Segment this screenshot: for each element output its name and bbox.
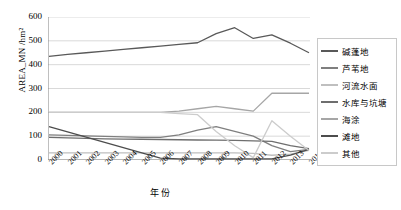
legend-label: 河流水面: [342, 79, 378, 91]
legend-item[interactable]: 芦苇地: [321, 59, 394, 76]
x-axis-title: 年份: [150, 186, 172, 199]
series-line: [49, 28, 309, 57]
series-line: [49, 127, 309, 159]
legend-swatch-icon: [321, 67, 338, 69]
y-tick-label: 300: [16, 84, 42, 93]
legend: 碱蓬地芦苇地河流水面水库与坑塘海涂滩地其他: [317, 38, 397, 166]
legend-item[interactable]: 河流水面: [321, 76, 394, 93]
legend-label: 其他: [342, 147, 360, 159]
y-axis-ticks: 0100200300400500600: [12, 0, 42, 210]
chart-container: AREA_MN /hm² 0100200300400500600 2000200…: [0, 0, 401, 210]
series-canvas: [48, 17, 310, 160]
legend-swatch-icon: [321, 84, 338, 86]
y-tick-label: 400: [16, 60, 42, 69]
y-tick-label: 0: [16, 155, 42, 164]
x-axis-ticks: 2000200120022003200420052006200720082009…: [48, 160, 310, 194]
legend-swatch-icon: [321, 50, 338, 52]
plot-area: [48, 17, 310, 160]
y-tick-label: 200: [16, 107, 42, 116]
legend-label: 碱蓬地: [342, 45, 369, 57]
series-line: [49, 137, 309, 148]
y-tick-label: 100: [16, 131, 42, 140]
series-line: [49, 93, 309, 112]
y-tick-label: 600: [16, 12, 42, 21]
legend-swatch-icon: [321, 135, 338, 137]
legend-swatch-icon: [321, 152, 338, 154]
legend-label: 水库与坑塘: [342, 96, 387, 108]
legend-item[interactable]: 水库与坑塘: [321, 93, 394, 110]
legend-label: 滩地: [342, 130, 360, 142]
legend-item[interactable]: 海涂: [321, 110, 394, 127]
y-tick-label: 500: [16, 36, 42, 45]
legend-swatch-icon: [321, 118, 338, 120]
legend-item[interactable]: 碱蓬地: [321, 42, 394, 59]
legend-item[interactable]: 其他: [321, 144, 394, 161]
legend-swatch-icon: [321, 101, 338, 103]
legend-label: 芦苇地: [342, 62, 369, 74]
legend-item[interactable]: 滩地: [321, 127, 394, 144]
legend-label: 海涂: [342, 113, 360, 125]
